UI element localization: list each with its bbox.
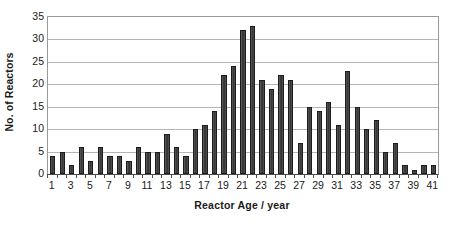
- bar[interactable]: [364, 129, 369, 174]
- bar-slot: [191, 17, 201, 174]
- y-axis-tick-labels: 05101520253035: [18, 11, 44, 176]
- bar-series: [48, 17, 438, 174]
- bar-slot: [219, 17, 229, 174]
- x-tick-mark: [114, 174, 115, 178]
- bar-slot: [77, 17, 87, 174]
- bar[interactable]: [164, 134, 169, 174]
- y-tick-label: 10: [18, 123, 44, 134]
- bar-slot: [58, 17, 68, 174]
- y-tick-label: 30: [18, 33, 44, 44]
- x-tick-mark: [104, 174, 105, 178]
- bar[interactable]: [69, 165, 74, 174]
- y-axis-title: No. of Reactors: [2, 12, 16, 172]
- bar-slot: [429, 17, 439, 174]
- x-tick-mark: [408, 174, 409, 178]
- x-tick-mark: [237, 174, 238, 178]
- bar[interactable]: [79, 147, 84, 174]
- bar[interactable]: [212, 111, 217, 174]
- bar[interactable]: [117, 156, 122, 174]
- bar[interactable]: [183, 156, 188, 174]
- bar[interactable]: [402, 165, 407, 174]
- bar[interactable]: [155, 152, 160, 174]
- bar-slot: [343, 17, 353, 174]
- x-tick-mark: [57, 174, 58, 178]
- x-axis-title: Reactor Age / year: [47, 199, 437, 211]
- bar[interactable]: [355, 107, 360, 174]
- x-tick-label: 41: [421, 179, 443, 192]
- bar[interactable]: [259, 80, 264, 174]
- bar[interactable]: [383, 152, 388, 174]
- bar[interactable]: [393, 143, 398, 174]
- x-tick-mark: [389, 174, 390, 178]
- bar-slot: [353, 17, 363, 174]
- bar[interactable]: [326, 102, 331, 174]
- bar[interactable]: [374, 120, 379, 174]
- bar[interactable]: [145, 152, 150, 174]
- y-tick-label: 5: [18, 145, 44, 156]
- bar[interactable]: [298, 143, 303, 174]
- bar-slot: [210, 17, 220, 174]
- bar-slot: [48, 17, 58, 174]
- x-tick-mark: [313, 174, 314, 178]
- bar[interactable]: [174, 147, 179, 174]
- x-tick-mark: [418, 174, 419, 178]
- bar[interactable]: [50, 156, 55, 174]
- bar-slot: [172, 17, 182, 174]
- bar[interactable]: [336, 125, 341, 174]
- y-tick-label: 25: [18, 55, 44, 66]
- bar-slot: [181, 17, 191, 174]
- bar[interactable]: [278, 75, 283, 174]
- bar-slot: [257, 17, 267, 174]
- bar-slot: [314, 17, 324, 174]
- bar-chart-figure: No. of Reactors 05101520253035 135791113…: [0, 0, 455, 232]
- plot-area: [47, 16, 439, 175]
- bar[interactable]: [307, 107, 312, 174]
- bar-slot: [381, 17, 391, 174]
- x-tick-mark: [370, 174, 371, 178]
- bar[interactable]: [269, 89, 274, 174]
- x-tick-mark: [85, 174, 86, 178]
- x-tick-mark: [218, 174, 219, 178]
- x-tick-mark: [199, 174, 200, 178]
- bar[interactable]: [107, 156, 112, 174]
- bar[interactable]: [317, 111, 322, 174]
- bar-slot: [134, 17, 144, 174]
- bar-slot: [286, 17, 296, 174]
- bar[interactable]: [88, 161, 93, 174]
- bar-slot: [105, 17, 115, 174]
- bar[interactable]: [421, 165, 426, 174]
- bar[interactable]: [98, 147, 103, 174]
- x-tick-mark: [133, 174, 134, 178]
- bar[interactable]: [231, 66, 236, 174]
- bar[interactable]: [240, 30, 245, 174]
- bar[interactable]: [202, 125, 207, 174]
- bar[interactable]: [288, 80, 293, 174]
- bar-slot: [372, 17, 382, 174]
- x-tick-mark: [161, 174, 162, 178]
- bar[interactable]: [221, 75, 226, 174]
- x-tick-mark: [66, 174, 67, 178]
- bar-slot: [153, 17, 163, 174]
- bar[interactable]: [136, 147, 141, 174]
- x-tick-mark: [437, 174, 438, 178]
- bar-slot: [400, 17, 410, 174]
- bar-slot: [96, 17, 106, 174]
- bar[interactable]: [126, 161, 131, 174]
- x-tick-mark: [152, 174, 153, 178]
- x-tick-mark: [342, 174, 343, 178]
- bar-slot: [115, 17, 125, 174]
- x-axis-tick-labels: 1357911131517192123252729313335373941: [47, 179, 437, 193]
- bar-slot: [362, 17, 372, 174]
- bar[interactable]: [193, 129, 198, 174]
- bar[interactable]: [60, 152, 65, 174]
- bar-slot: [324, 17, 334, 174]
- bar[interactable]: [431, 165, 436, 174]
- bar-slot: [67, 17, 77, 174]
- x-tick-mark: [209, 174, 210, 178]
- bar-slot: [305, 17, 315, 174]
- bar-slot: [124, 17, 134, 174]
- x-tick-mark: [95, 174, 96, 178]
- bar[interactable]: [250, 26, 255, 174]
- bar[interactable]: [345, 71, 350, 174]
- bar-slot: [238, 17, 248, 174]
